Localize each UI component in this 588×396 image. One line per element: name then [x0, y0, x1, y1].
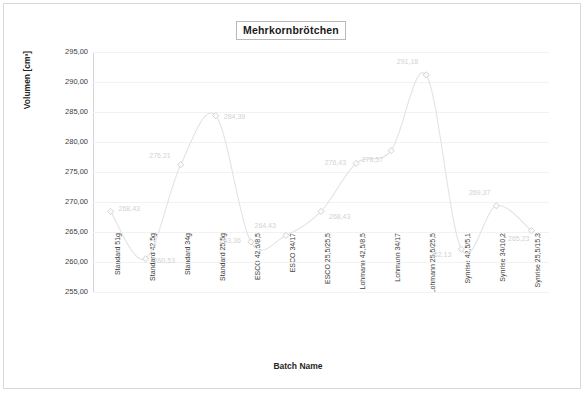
data-point-label: 265,23 — [503, 235, 529, 242]
data-point-label: 260,53 — [154, 257, 175, 264]
data-point-label: 284,39 — [224, 113, 245, 120]
y-axis-tick-label: 275,00 — [34, 167, 88, 176]
y-axis-tick-label: 295,00 — [34, 47, 88, 56]
chart-frame: Mehrkornbrötchen Volumen [cm³] Batch Nam… — [3, 3, 581, 389]
gridline — [93, 292, 549, 293]
data-point-label: 262,13 — [425, 251, 451, 258]
y-axis-tick-label: 260,00 — [34, 257, 88, 266]
data-point-label: 291,18 — [392, 58, 418, 65]
y-axis-tick-label: 270,00 — [34, 197, 88, 206]
data-point-label: 264,43 — [250, 222, 276, 229]
data-point-label: 268,43 — [119, 205, 140, 212]
y-axis-tick-label: 285,00 — [34, 107, 88, 116]
y-axis-title: Volumen [cm³] — [22, 25, 32, 135]
y-axis-tick-label: 255,00 — [34, 287, 88, 296]
data-point-label: 276,43 — [320, 159, 346, 166]
plot-area: 268,43260,53276,21284,39263,36264,43268,… — [93, 52, 549, 292]
x-axis-title: Batch Name — [4, 361, 588, 371]
page-title: Mehrkornbrötchen — [236, 21, 346, 40]
data-point-label: 278,57 — [357, 156, 383, 163]
data-point-label: 263,36 — [215, 237, 241, 244]
y-axis-tick-label: 280,00 — [34, 137, 88, 146]
y-axis-tick-label: 265,00 — [34, 227, 88, 236]
data-point-label: 269,37 — [464, 189, 490, 196]
data-point-label: 276,21 — [145, 152, 171, 159]
data-point-label: 268,43 — [329, 213, 350, 220]
y-axis-tick-label: 290,00 — [34, 77, 88, 86]
